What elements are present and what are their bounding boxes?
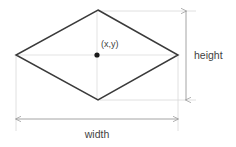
- height-label: height: [194, 49, 223, 61]
- center-coordinate-label: (x,y): [101, 39, 119, 49]
- width-label: width: [84, 128, 110, 140]
- center-point-dot: [94, 52, 99, 57]
- diagram-canvas: (x,y) height width: [0, 0, 236, 147]
- height-extension-lines: [98, 11, 196, 100]
